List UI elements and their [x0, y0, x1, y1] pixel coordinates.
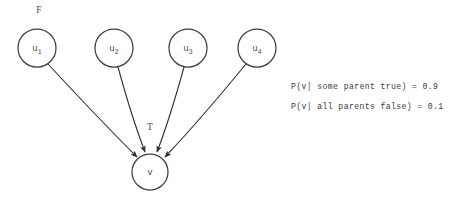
edge-group: [48, 64, 246, 157]
edge-u3-to-v: [157, 67, 184, 152]
node-v[interactable]: v: [132, 154, 168, 190]
state-label-true: T: [147, 122, 153, 132]
node-u1[interactable]: u1: [18, 29, 56, 67]
node-u3[interactable]: u3: [169, 29, 207, 67]
state-label-false: F: [36, 5, 41, 15]
edge-u2-to-v: [118, 67, 145, 152]
edge-u4-to-v: [165, 64, 246, 157]
node-u2[interactable]: u2: [95, 29, 133, 67]
edge-u1-to-v: [48, 64, 137, 157]
node-u4[interactable]: u4: [238, 29, 276, 67]
bayesian-network-diagram: u1 u2 u3 u4 v F T: [0, 0, 464, 201]
node-v-label: v: [147, 168, 153, 178]
cpt-line-some-parent-true: P(v| some parent true) = 0.9: [291, 83, 438, 91]
cpt-line-all-parents-false: P(v| all parents false) = 0.1: [291, 103, 444, 111]
